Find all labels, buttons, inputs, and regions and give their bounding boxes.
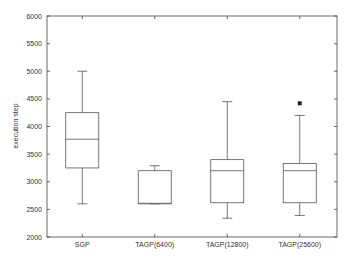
x-tick-label: SGP — [75, 241, 90, 248]
iqr-box — [138, 171, 171, 204]
box-tagp12800 — [211, 102, 244, 219]
y-tick-label: 5000 — [26, 68, 42, 75]
box-sgp — [66, 71, 99, 204]
boxes — [66, 71, 317, 218]
y-tick-label: 4500 — [26, 95, 42, 102]
iqr-box — [66, 113, 99, 168]
y-tick-label: 6000 — [26, 13, 42, 20]
box-tagp25600 — [283, 101, 316, 215]
y-tick-label: 2000 — [26, 234, 42, 241]
y-tick-label: 2500 — [26, 206, 42, 213]
x-tick-label: TAGP(6400) — [135, 241, 174, 249]
box-tagp6400 — [138, 166, 171, 204]
y-tick-label: 4000 — [26, 123, 42, 130]
y-tick-label: 5500 — [26, 40, 42, 47]
iqr-box — [211, 160, 244, 203]
x-axis: SGPTAGP(6400)TAGP(12800)TAGP(25600) — [75, 16, 321, 249]
outlier-marker — [298, 101, 302, 105]
y-tick-label: 3500 — [26, 151, 42, 158]
y-tick-label: 3000 — [26, 178, 42, 185]
x-tick-label: TAGP(12800) — [206, 241, 249, 249]
y-axis-label: execution step — [12, 103, 20, 148]
iqr-box — [283, 164, 316, 203]
box-plot-chart: 200025003000350040004500500055006000 SGP… — [0, 0, 350, 258]
x-tick-label: TAGP(25600) — [278, 241, 321, 249]
